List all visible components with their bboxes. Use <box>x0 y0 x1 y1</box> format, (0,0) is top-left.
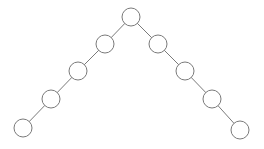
tree-node-root <box>122 8 140 26</box>
tree-node-r4 <box>231 121 249 139</box>
tree-node-l2 <box>69 62 87 80</box>
tree-diagram <box>0 0 264 149</box>
tree-node-l1 <box>96 35 114 53</box>
nodes-group <box>14 8 249 139</box>
tree-node-r1 <box>149 35 167 53</box>
tree-node-l4 <box>14 119 32 137</box>
edges-group <box>23 17 240 130</box>
tree-node-r3 <box>203 90 221 108</box>
tree-node-l3 <box>42 90 60 108</box>
tree-node-r2 <box>176 62 194 80</box>
